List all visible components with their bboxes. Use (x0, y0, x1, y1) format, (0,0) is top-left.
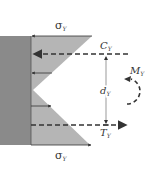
moment-arc (127, 79, 140, 104)
compression-stress-block (31, 36, 92, 90)
stress-diagram: σY σY CY TY MY dY (0, 0, 152, 180)
compression-label: CY (100, 40, 113, 52)
moment-arrowhead-icon (124, 76, 131, 82)
moment-label: MY (129, 65, 145, 77)
beam-section (0, 36, 31, 145)
tension-label: TY (100, 127, 112, 139)
lever-arm-label: dY (100, 85, 111, 97)
tension-stress-block (31, 90, 90, 145)
sigma-top-label: σY (55, 19, 68, 32)
sigma-bottom-label: σY (55, 149, 68, 162)
